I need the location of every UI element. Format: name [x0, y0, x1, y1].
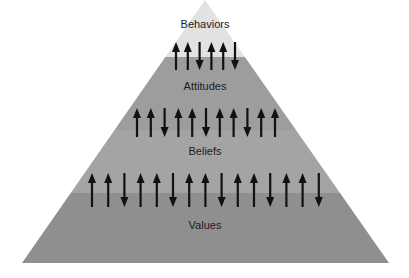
pyramid-diagram: Behaviors Attitudes Beliefs Values [0, 0, 409, 278]
tier-label-attitudes: Attitudes [184, 80, 227, 92]
tier-label-values: Values [189, 219, 222, 231]
pyramid-graphic [0, 0, 409, 278]
tier-label-beliefs: Beliefs [188, 145, 221, 157]
tier-label-behaviors: Behaviors [181, 18, 230, 30]
